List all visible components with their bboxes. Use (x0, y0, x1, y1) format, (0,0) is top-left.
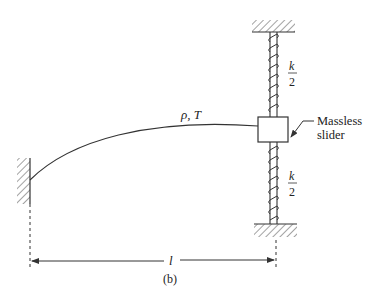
figure-label: (b) (163, 272, 177, 286)
bottom-spring-label: k 2 (288, 169, 297, 199)
bottom-fixed-wall (254, 224, 297, 237)
length-label: l (169, 253, 173, 268)
svg-text:2: 2 (289, 75, 295, 89)
svg-text:k: k (289, 169, 295, 183)
slider-label-line1: Massless (317, 114, 362, 128)
top-spring-label: k 2 (288, 59, 297, 89)
top-fixed-wall (252, 20, 295, 32)
svg-text:2: 2 (289, 185, 295, 199)
slider-label-line2: slider (317, 128, 346, 142)
top-spring (269, 32, 279, 117)
left-fixed-wall (17, 158, 30, 204)
vibrating-string-diagram: ρ, T k 2 k 2 Massless slider l (b) (0, 0, 374, 300)
massless-slider (258, 117, 288, 142)
slider-leader-arrow (291, 121, 314, 137)
length-dimension-line (32, 260, 274, 261)
svg-text:k: k (289, 59, 295, 73)
bottom-spring (269, 142, 279, 224)
string-label: ρ, T (180, 107, 202, 122)
string-curve (30, 124, 258, 180)
